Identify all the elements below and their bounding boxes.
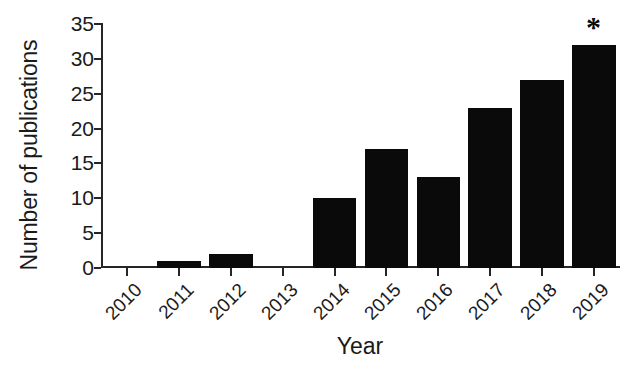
y-axis-tick	[94, 197, 101, 199]
asterisk-annotation: *	[586, 12, 601, 42]
bar-2011	[157, 261, 201, 268]
x-axis-tick-label: 2013	[253, 279, 302, 328]
y-axis-tick-label: 35	[54, 12, 94, 36]
x-axis-tick	[593, 268, 595, 276]
y-axis-tick-label: 25	[54, 82, 94, 106]
x-axis-tick	[126, 268, 128, 276]
x-axis-tick	[541, 268, 543, 276]
y-axis-label: Number of publications	[12, 20, 46, 290]
x-axis-tick	[489, 268, 491, 276]
x-axis-tick	[230, 268, 232, 276]
x-axis-tick	[282, 268, 284, 276]
publications-per-year-bar-chart: Number of publications Year 051015202530…	[0, 0, 643, 371]
bar-2016	[417, 177, 461, 268]
x-axis-tick-label: 2014	[305, 279, 354, 328]
x-axis-tick	[437, 268, 439, 276]
x-axis-tick	[385, 268, 387, 276]
x-axis-tick	[334, 268, 336, 276]
bar-2012	[209, 254, 253, 268]
y-axis-tick	[94, 23, 101, 25]
x-axis-tick-label: 2016	[408, 279, 457, 328]
bar-2015	[365, 149, 409, 268]
y-axis-tick-label: 30	[54, 47, 94, 71]
y-axis-tick-label: 5	[54, 221, 94, 245]
y-axis-tick	[94, 162, 101, 164]
x-axis-tick-label: 2011	[149, 279, 198, 328]
y-axis-tick-label: 10	[54, 186, 94, 210]
bar-2017	[468, 108, 512, 268]
bar-2019	[572, 45, 616, 268]
y-axis-tick-label: 15	[54, 151, 94, 175]
y-axis-tick	[94, 93, 101, 95]
y-axis-tick	[94, 232, 101, 234]
y-axis-tick	[94, 267, 101, 269]
y-axis-tick-label: 20	[54, 117, 94, 141]
x-axis-tick-label: 2017	[460, 279, 509, 328]
x-axis-tick	[178, 268, 180, 276]
x-axis-tick-label: 2010	[97, 279, 146, 328]
x-axis-tick-label: 2018	[512, 279, 561, 328]
plot-area	[101, 24, 620, 268]
bar-2014	[313, 198, 357, 268]
y-axis-tick	[94, 58, 101, 60]
y-axis-tick	[94, 128, 101, 130]
x-axis-label: Year	[100, 333, 620, 360]
x-axis-tick-label: 2015	[356, 279, 405, 328]
y-axis-tick-label: 0	[54, 256, 94, 280]
bar-2018	[520, 80, 564, 268]
x-axis-tick-label: 2019	[564, 279, 613, 328]
x-axis-tick-label: 2012	[201, 279, 250, 328]
